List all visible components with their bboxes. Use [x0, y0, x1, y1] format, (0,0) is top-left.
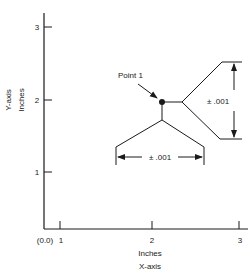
x-tick-label-1: 1: [59, 236, 64, 245]
vertical-tolerance-label: ± .001: [207, 97, 230, 106]
y-axis-unit: Inches: [17, 88, 26, 112]
x-tick-label-2: 2: [150, 236, 155, 245]
point-1: Point 1: [118, 71, 165, 105]
y-tick-label-3: 3: [35, 23, 40, 32]
y-axis: 3 2 1 Y-axis Inches: [4, 13, 52, 229]
y-tick-label-1: 1: [35, 168, 40, 177]
x-axis-title: X-axis: [139, 262, 161, 271]
tolerance-diagram: 3 2 1 Y-axis Inches (0.0) 1 2 3 Inches X…: [0, 0, 252, 273]
x-axis-unit: Inches: [138, 249, 162, 258]
x-tick-label-3: 3: [238, 236, 243, 245]
point-1-leader-arrow: [138, 84, 157, 98]
y-tick-label-2: 2: [35, 96, 40, 105]
origin-label: (0.0): [37, 236, 54, 245]
horizontal-tolerance-label: ± .001: [149, 153, 172, 162]
point-1-label: Point 1: [118, 71, 143, 80]
x-axis: (0.0) 1 2 3 Inches X-axis: [37, 221, 248, 271]
y-axis-title: Y-axis: [4, 89, 13, 111]
horizontal-tolerance: ± .001: [116, 102, 204, 165]
